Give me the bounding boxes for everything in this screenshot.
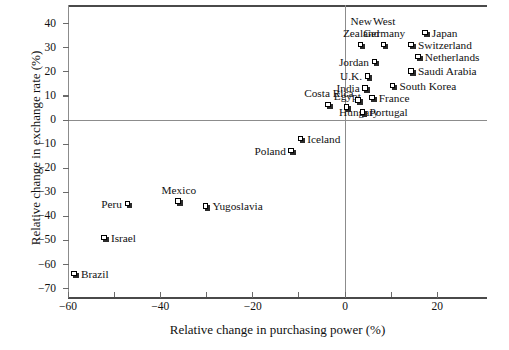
marker-square <box>325 102 330 107</box>
y-tick <box>63 47 69 48</box>
data-point-marker[interactable] <box>415 54 422 61</box>
marker-square <box>298 136 303 141</box>
marker-square <box>415 54 420 59</box>
data-point-marker[interactable] <box>71 271 78 278</box>
marker-square <box>381 42 386 47</box>
y-zero-reference-line <box>68 120 487 121</box>
plot-frame-bottom-border <box>68 297 487 299</box>
data-point-marker[interactable] <box>358 42 365 49</box>
data-point-label: Japan <box>432 27 458 39</box>
marker-square <box>288 148 293 153</box>
y-tick <box>63 216 69 217</box>
marker-square <box>355 97 360 102</box>
data-point-label: U.K. <box>272 70 362 82</box>
marker-square <box>369 95 374 100</box>
data-point-label: Israel <box>111 232 136 244</box>
data-point-label: Portugal <box>369 106 407 118</box>
x-tick <box>345 292 346 298</box>
y-tick <box>63 23 69 24</box>
marker-square <box>125 201 130 206</box>
data-point-marker[interactable] <box>369 95 376 102</box>
data-point-marker[interactable] <box>175 198 182 205</box>
marker-square <box>365 73 370 78</box>
marker-square <box>101 235 106 240</box>
marker-square <box>203 203 208 208</box>
x-tick-label: 0 <box>325 300 365 312</box>
x-tick-label: 20 <box>417 300 457 312</box>
x-tick <box>68 292 69 298</box>
marker-square <box>358 42 363 47</box>
data-point-label: South Korea <box>399 80 456 92</box>
data-point-marker[interactable] <box>101 235 108 242</box>
data-point-label: Netherlands <box>425 51 480 63</box>
y-tick <box>63 120 69 121</box>
data-point-marker[interactable] <box>408 68 415 75</box>
data-point-marker[interactable] <box>125 201 132 208</box>
y-tick <box>63 71 69 72</box>
data-point-marker[interactable] <box>365 73 372 80</box>
y-tick <box>63 192 69 193</box>
y-tick <box>63 95 69 96</box>
data-point-label: Iceland <box>307 133 340 145</box>
data-point-marker[interactable] <box>372 59 379 66</box>
marker-square <box>71 271 76 276</box>
x-tick-label: −40 <box>140 300 180 312</box>
data-point-label: Brazil <box>81 268 109 280</box>
y-tick <box>63 240 69 241</box>
data-point-marker[interactable] <box>422 30 429 37</box>
marker-square <box>360 109 365 114</box>
marker-square <box>408 42 413 47</box>
y-tick <box>63 144 69 145</box>
data-point-label: Poland <box>196 145 286 157</box>
data-point-marker[interactable] <box>325 102 332 109</box>
marker-square <box>344 104 349 109</box>
data-point-label: Switzerland <box>418 39 472 51</box>
data-point-label: Jordan <box>279 56 369 68</box>
x-minor-tick <box>114 292 115 297</box>
data-point-label: New Zealand <box>316 15 406 39</box>
y-axis-title: Relative change in exchange rate (%) <box>28 28 44 268</box>
marker-square <box>372 59 377 64</box>
data-point-marker[interactable] <box>344 104 351 111</box>
plot-frame-top-border <box>68 5 487 7</box>
x-tick <box>160 292 161 298</box>
x-zero-reference-line <box>345 5 346 297</box>
data-point-marker[interactable] <box>298 136 305 143</box>
data-point-marker[interactable] <box>362 85 369 92</box>
data-point-marker[interactable] <box>360 109 367 116</box>
x-minor-tick <box>206 292 207 297</box>
x-minor-tick <box>391 292 392 297</box>
y-tick <box>63 168 69 169</box>
marker-square <box>422 30 427 35</box>
data-point-marker[interactable] <box>408 42 415 49</box>
x-tick-label: −20 <box>233 300 273 312</box>
x-minor-tick <box>298 292 299 297</box>
x-axis-title: Relative change in purchasing power (%) <box>68 322 487 338</box>
data-point-marker[interactable] <box>203 203 210 210</box>
y-axis-spine <box>68 5 69 297</box>
marker-square <box>362 85 367 90</box>
marker-square <box>408 68 413 73</box>
data-point-marker[interactable] <box>355 97 362 104</box>
data-point-label: Mexico <box>134 184 224 196</box>
data-point-marker[interactable] <box>390 83 397 90</box>
data-point-marker[interactable] <box>288 148 295 155</box>
data-point-label: Yugoslavia <box>213 200 263 212</box>
y-tick-label: −70 <box>30 283 56 295</box>
data-point-label: Peru <box>32 198 122 210</box>
x-tick <box>252 292 253 298</box>
x-tick <box>437 292 438 298</box>
marker-square <box>390 83 395 88</box>
scatter-plot-figure: 403020100−10−20−30−40−50−60−70 −60−40−20… <box>0 0 509 350</box>
y-tick <box>63 264 69 265</box>
marker-square <box>175 198 180 203</box>
data-point-marker[interactable] <box>381 42 388 49</box>
data-point-label: Saudi Arabia <box>418 65 477 77</box>
x-tick-label: −60 <box>48 300 88 312</box>
y-tick <box>63 288 69 289</box>
